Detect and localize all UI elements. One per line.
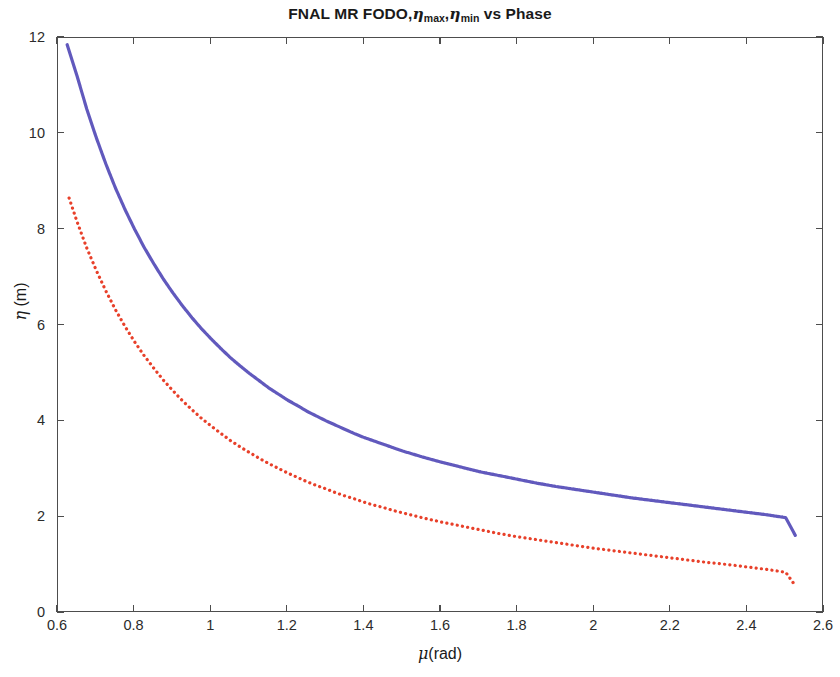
x-axis-tick-label: 2.6: [813, 617, 833, 633]
y-axis-title: η (m): [11, 222, 30, 382]
y-axis-tick: [57, 516, 64, 517]
x-axis-title-greek: μ: [418, 644, 428, 663]
x-axis-tick: [669, 605, 670, 612]
y-axis-title-greek: η: [11, 311, 30, 321]
x-axis-tick: [439, 37, 440, 44]
figure-canvas: FNAL MR FODO,ηmax,ηmin vs Phase 0.60.811…: [0, 0, 840, 677]
x-axis-tick-label: 1.6: [430, 617, 450, 633]
x-axis-tick: [363, 605, 364, 612]
x-axis-tick: [210, 605, 211, 612]
x-axis-tick: [593, 605, 594, 612]
y-axis-tick-label: 10: [0, 125, 45, 141]
x-axis-tick-label: 0.8: [124, 617, 144, 633]
y-axis-tick: [816, 36, 823, 37]
x-axis-tick-label: 1.8: [507, 617, 527, 633]
x-axis-tick: [439, 605, 440, 612]
chart-title-min-subscript: min: [461, 12, 480, 24]
chart-title-suffix: vs Phase: [479, 5, 551, 22]
chart-title-max-subscript: max: [424, 12, 445, 24]
x-axis-tick-label: 1: [206, 617, 214, 633]
x-axis-tick: [746, 605, 747, 612]
x-axis-tick: [669, 37, 670, 44]
y-axis-tick-label: 4: [0, 412, 45, 428]
x-axis-tick: [516, 605, 517, 612]
x-axis-tick: [363, 37, 364, 44]
series-line-ηmax: [67, 45, 795, 536]
x-axis-tick: [516, 37, 517, 44]
x-axis-tick: [133, 605, 134, 612]
series-layer: [67, 45, 795, 586]
x-axis-tick: [822, 37, 823, 44]
x-axis-tick: [286, 37, 287, 44]
plot-area: [57, 37, 823, 612]
x-axis-tick-label: 1.2: [277, 617, 297, 633]
y-axis-tick-label: 2: [0, 508, 45, 524]
x-axis-title-unit: (rad): [428, 645, 462, 662]
y-axis-tick-label: 12: [0, 29, 45, 45]
y-axis-tick: [57, 611, 64, 612]
y-axis-tick: [57, 132, 64, 133]
y-axis-title-unit: (m): [12, 282, 29, 310]
x-axis-tick: [593, 37, 594, 44]
x-axis-tick: [210, 37, 211, 44]
x-axis-tick-label: 2.4: [736, 617, 756, 633]
x-axis-tick: [133, 37, 134, 44]
y-axis-tick: [57, 228, 64, 229]
x-axis-tick-label: 2: [589, 617, 597, 633]
y-axis-tick: [57, 36, 64, 37]
y-axis-tick: [57, 420, 64, 421]
chart-title: FNAL MR FODO,ηmax,ηmin vs Phase: [0, 4, 840, 24]
chart-title-eta-max-symbol: η: [412, 4, 423, 23]
y-axis-tick: [816, 420, 823, 421]
y-axis-tick: [816, 324, 823, 325]
y-axis-tick: [57, 324, 64, 325]
x-axis-tick-label: 1.4: [353, 617, 373, 633]
y-axis-tick: [816, 132, 823, 133]
y-axis-tick: [816, 611, 823, 612]
plot-svg: [58, 38, 823, 612]
x-axis-tick-label: 2.2: [660, 617, 680, 633]
x-axis-tick: [746, 37, 747, 44]
series-line-ηmin: [69, 198, 795, 586]
chart-title-prefix: FNAL MR FODO,: [288, 5, 412, 22]
chart-title-eta-min-symbol: η: [449, 4, 460, 23]
x-axis-tick: [56, 37, 57, 44]
x-axis-tick: [286, 605, 287, 612]
x-axis-title: μ(rad): [57, 644, 823, 663]
x-axis-tick-label: 0.6: [47, 617, 67, 633]
y-axis-tick: [816, 228, 823, 229]
y-axis-tick-label: 0: [0, 604, 45, 620]
y-axis-tick: [816, 516, 823, 517]
